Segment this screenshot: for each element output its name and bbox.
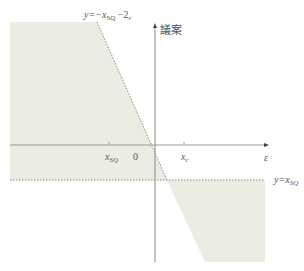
- shaded-region-lower: [167, 180, 265, 262]
- top-line-label: y=−xSQ −2ε: [84, 9, 131, 22]
- x-c-label: xc: [181, 151, 189, 164]
- x-c-label-sub: c: [185, 156, 188, 164]
- bottom-line-label-lhs: y=x: [274, 174, 290, 185]
- x-sq-label: xSQ: [105, 151, 118, 164]
- top-line-label-rhs-sub: ε: [128, 14, 131, 22]
- top-line-label-rhs: −2: [115, 9, 128, 20]
- y-axis-arrow-icon: [153, 23, 157, 28]
- shaded-region-upper: [10, 22, 167, 180]
- x-sq-label-sub: SQ: [109, 156, 118, 164]
- diagram-canvas: [0, 0, 304, 271]
- y-axis-label: 議案: [160, 21, 182, 37]
- top-line-label-lhs: y=−x: [84, 9, 106, 20]
- bottom-line-label: y=xSQ: [274, 174, 298, 187]
- x-axis-label: ε: [264, 152, 268, 163]
- x-axis-arrow-icon: [264, 143, 269, 147]
- origin-label: 0: [133, 151, 138, 162]
- top-line-label-sub: SQ: [106, 14, 115, 22]
- bottom-line-label-sub: SQ: [290, 179, 299, 187]
